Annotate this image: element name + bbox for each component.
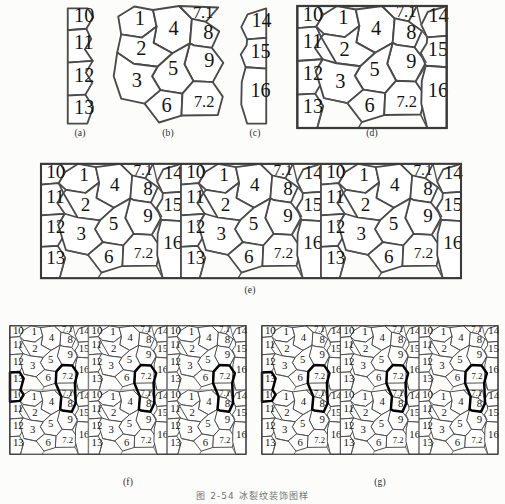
panel-a-diagram: 10 11 12 13 <box>57 6 103 126</box>
figure-caption: 图 2-54 冰裂纹装饰图样 <box>0 489 505 502</box>
svg-text:10: 10 <box>74 4 94 26</box>
svg-text:4: 4 <box>168 17 178 39</box>
panel-g-tiles <box>262 324 500 454</box>
panel-b: 1 4 7.1 8 2 9 5 3 6 7.2 <box>110 4 226 126</box>
panel-c: 14 15 16 <box>232 6 276 126</box>
svg-text:13: 13 <box>74 96 94 118</box>
panel-a: 10 11 12 13 <box>57 6 103 126</box>
panel-f <box>10 310 246 470</box>
svg-text:8: 8 <box>203 21 213 43</box>
panel-c-label: (c) <box>235 128 275 138</box>
panel-f-diagram <box>10 310 246 470</box>
svg-text:11: 11 <box>74 31 93 53</box>
panel-e-tiles <box>41 161 463 279</box>
panel-g-label: (g) <box>360 477 400 487</box>
svg-text:14: 14 <box>252 9 272 31</box>
panel-e <box>41 160 461 282</box>
panel-f-tiles <box>10 324 248 454</box>
panel-c-diagram: 14 15 16 <box>232 6 276 126</box>
svg-text:12: 12 <box>74 64 94 86</box>
panel-g <box>262 310 498 470</box>
panel-c-labels: 14 15 16 <box>251 9 272 101</box>
panel-g-diagram <box>262 310 498 470</box>
panel-f-label: (f) <box>108 477 148 487</box>
panel-b-diagram: 1 4 7.1 8 2 9 5 3 6 7.2 <box>110 4 226 126</box>
svg-text:7.1: 7.1 <box>193 3 214 22</box>
svg-text:5: 5 <box>168 57 178 79</box>
panel-b-label: (b) <box>148 128 188 138</box>
svg-text:1: 1 <box>135 7 145 29</box>
svg-text:3: 3 <box>132 69 142 91</box>
svg-text:15: 15 <box>251 40 271 62</box>
svg-text:9: 9 <box>204 49 214 71</box>
svg-text:7.2: 7.2 <box>194 92 215 111</box>
panel-d-label: (d) <box>352 128 392 138</box>
panel-d: 10 11 12 13 1 4 7.1 8 2 9 5 3 6 7.2 14 1… <box>288 6 456 128</box>
figure-page: 10 11 12 13 (a) <box>0 0 505 504</box>
panel-e-diagram <box>41 160 461 282</box>
svg-text:2: 2 <box>136 37 146 59</box>
panel-e-label: (e) <box>230 285 270 295</box>
panel-d-diagram: 10 11 12 13 1 4 7.1 8 2 9 5 3 6 7.2 14 1… <box>288 6 456 128</box>
panel-a-label: (a) <box>60 128 100 138</box>
svg-text:16: 16 <box>251 79 271 101</box>
svg-text:6: 6 <box>162 94 172 116</box>
